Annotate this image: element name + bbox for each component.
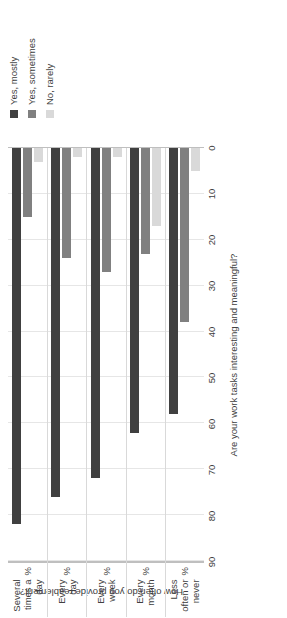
legend-item-yes-mostly: Yes, mostly: [8, 6, 19, 118]
bar-row: [23, 148, 32, 561]
chart-legend: Yes, mostly Yes, sometimes No, rarely: [8, 6, 55, 118]
legend-label-yes-sometimes: Yes, sometimes: [26, 38, 37, 105]
bar: [113, 148, 122, 157]
bar-row: [91, 148, 100, 561]
legend-label-no-rarely: No, rarely: [44, 64, 55, 105]
bar: [191, 148, 200, 171]
bar: [152, 148, 161, 226]
bar-group: [165, 148, 204, 561]
value-tick-label-50: 50: [206, 373, 217, 384]
bar-row: [169, 148, 178, 561]
bar-row: [191, 148, 200, 561]
bar: [180, 148, 189, 322]
legend-item-no-rarely: No, rarely: [44, 6, 55, 118]
category-unit-label: %: [140, 567, 151, 575]
bar-row: [34, 148, 43, 561]
bar-row: [102, 148, 111, 561]
bar-row: [73, 148, 82, 561]
category-unit-label: %: [179, 567, 190, 575]
value-tick-label-40: 40: [206, 327, 217, 338]
chart-figure: Yes, mostly Yes, sometimes No, rarely Se…: [0, 0, 287, 618]
bar: [34, 148, 43, 162]
legend-swatch-yes-sometimes: [28, 110, 36, 118]
bar: [102, 148, 111, 272]
legend-label-yes-mostly: Yes, mostly: [8, 57, 19, 105]
bar: [23, 148, 32, 217]
value-axis-title: Are your work tasks interesting and mean…: [228, 148, 240, 562]
bar-row: [141, 148, 150, 561]
bar: [51, 148, 60, 497]
bar-row: [152, 148, 161, 561]
rotated-figure-wrapper: Yes, mostly Yes, sometimes No, rarely Se…: [0, 0, 287, 618]
value-tick-label-20: 20: [206, 235, 217, 246]
bar-row: [130, 148, 139, 561]
bar: [91, 148, 100, 478]
bar-groups: [8, 148, 204, 561]
value-tick-label-30: 30: [206, 281, 217, 292]
legend-swatch-no-rarely: [46, 110, 54, 118]
plot-area: [8, 148, 204, 562]
bar-group: [47, 148, 86, 561]
bar: [169, 148, 178, 414]
bar: [62, 148, 71, 258]
bar: [141, 148, 150, 254]
bar-row: [113, 148, 122, 561]
bar: [130, 148, 139, 433]
bar-row: [62, 148, 71, 561]
value-tick-label-0: 0: [206, 145, 217, 150]
bar: [73, 148, 82, 157]
legend-item-yes-sometimes: Yes, sometimes: [26, 6, 37, 118]
bar-group: [8, 148, 47, 561]
value-tick-label-10: 10: [206, 189, 217, 200]
value-tick-label-70: 70: [206, 465, 217, 476]
bar-group: [86, 148, 125, 561]
bar: [12, 148, 21, 524]
value-tick-label-60: 60: [206, 419, 217, 430]
category-unit-label: %: [22, 567, 33, 575]
category-unit-label: %: [101, 567, 112, 575]
bar-group: [126, 148, 165, 561]
category-axis-title: How often do you provide reablement?: [4, 587, 200, 598]
category-unit-label: %: [61, 567, 72, 575]
value-tick-label-90: 90: [206, 557, 217, 568]
value-axis: 0102030405060708090: [206, 148, 222, 562]
bar-row: [12, 148, 21, 561]
value-tick-label-80: 80: [206, 511, 217, 522]
bar-row: [180, 148, 189, 561]
legend-swatch-yes-mostly: [10, 110, 18, 118]
bar-row: [51, 148, 60, 561]
